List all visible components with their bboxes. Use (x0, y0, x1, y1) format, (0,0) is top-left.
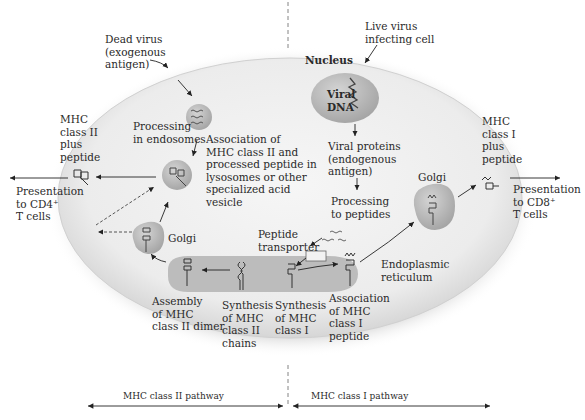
label-viral-proteins: Viral proteins (endogenous antigen) (328, 140, 401, 178)
label-presentation-cd8: Presentation to CD8⁺ T cells (513, 183, 581, 221)
label-golgi-left: Golgi (168, 232, 196, 245)
label-live-virus: Live virus infecting cell (365, 20, 434, 45)
label-class2-pathway: MHC class II pathway (123, 391, 224, 402)
label-mhc1-plus-peptide: MHC class I plus peptide (482, 115, 522, 165)
endoplasmic-reticulum (168, 256, 358, 292)
label-association-class1: Association of MHC class I peptide (329, 292, 390, 342)
label-processing-endosomes: Processing in endosomes (133, 120, 206, 145)
label-mhc2-plus-peptide: MHC class II plus peptide (60, 113, 100, 163)
label-nucleus: Nucleus (305, 54, 353, 67)
label-golgi-right: Golgi (418, 171, 446, 184)
label-peptide-transporter: Peptide transporter (258, 228, 319, 253)
label-synthesis-class2: Synthesis of MHC class II chains (222, 299, 273, 349)
label-association-class2: Association of MHC class II and processe… (206, 133, 317, 208)
diagram-canvas (0, 0, 585, 420)
label-viral-dna: Viral DNA (327, 88, 355, 113)
label-class1-pathway: MHC class I pathway (311, 391, 408, 402)
label-processing-peptides: Processing to peptides (331, 195, 390, 220)
lysosome (162, 160, 192, 190)
label-assembly-class2: Assembly of MHC class II dimer (152, 295, 225, 333)
label-dead-virus: Dead virus (exogenous antigen) (105, 33, 166, 71)
label-presentation-cd4: Presentation to CD4⁺ T cells (16, 185, 84, 223)
label-endoplasmic-reticulum: Endoplasmic reticulum (381, 258, 449, 283)
label-synthesis-class1: Synthesis of MHC class I (275, 299, 326, 337)
